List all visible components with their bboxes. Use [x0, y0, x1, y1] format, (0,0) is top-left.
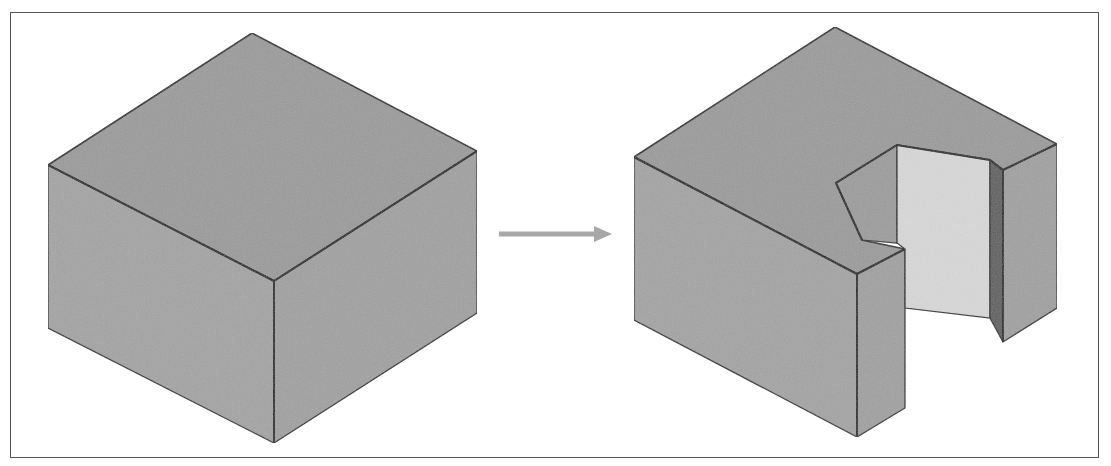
notch-light-face: [897, 145, 990, 318]
diagram-canvas: [0, 0, 1111, 466]
notched-right-face: [1003, 144, 1057, 342]
notched-front-right-face: [857, 249, 905, 437]
notched-block: [634, 27, 1057, 437]
original-block: [48, 33, 477, 443]
notch-dark-face: [990, 160, 1003, 342]
transform-arrow-icon: [499, 226, 612, 242]
